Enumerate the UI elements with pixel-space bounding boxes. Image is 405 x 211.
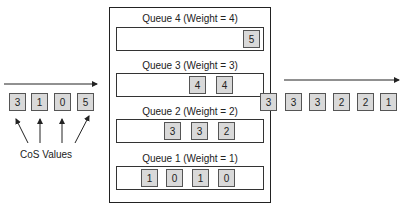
cos-values-label: CoS Values [20, 149, 72, 160]
queue-1-cell: 1 [192, 169, 209, 187]
output-cell: 3 [285, 93, 302, 111]
queue-4-box [116, 27, 264, 51]
queue-3-label: Queue 3 (Weight = 3) [109, 60, 271, 71]
queue-1-cell: 0 [166, 169, 183, 187]
queue-3-cell: 4 [189, 76, 206, 94]
queue-1-cell: 1 [141, 169, 158, 187]
queue-1-label: Queue 1 (Weight = 1) [109, 153, 271, 164]
output-cell: 2 [333, 93, 350, 111]
output-cell: 3 [260, 93, 277, 111]
cos-pointer-arrow-4 [75, 116, 89, 143]
input-cell: 0 [54, 93, 71, 111]
output-cell: 1 [380, 93, 397, 111]
queue-2-cell: 2 [218, 122, 235, 140]
input-cell: 3 [9, 93, 26, 111]
input-cell: 1 [31, 93, 48, 111]
queue-3-cell: 4 [216, 76, 233, 94]
output-cell: 3 [309, 93, 326, 111]
queue-2-cell: 3 [191, 122, 208, 140]
input-cell: 5 [77, 93, 94, 111]
output-cell: 2 [357, 93, 374, 111]
queue-2-cell: 3 [164, 122, 181, 140]
queue-2-label: Queue 2 (Weight = 2) [109, 106, 271, 117]
queue-4-cell: 5 [243, 30, 260, 48]
queue-2-box [116, 119, 264, 143]
queue-1-box [116, 166, 264, 190]
queue-4-label: Queue 4 (Weight = 4) [109, 13, 271, 24]
cos-pointer-arrow-1 [16, 119, 28, 143]
queue-1-cell: 0 [218, 169, 235, 187]
